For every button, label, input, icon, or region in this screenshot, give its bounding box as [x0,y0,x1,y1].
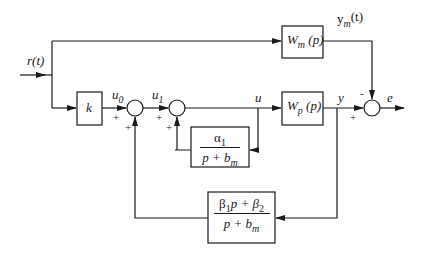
gain-label: k [86,101,92,114]
alpha-filter-transfer-function: α1 p + bm [196,131,244,164]
model-label: Wm (p) [287,33,324,46]
summing-junction-1 [127,100,143,116]
u0-label: u0 [112,88,124,101]
e-label: e [387,91,393,104]
beta-filter-transfer-function: β1p + β2 p + bm [211,197,272,230]
sum3-top-sign: - [360,88,364,99]
plant-label: Wp (p) [287,99,321,112]
ym-label: ym(t) [337,12,363,25]
u-label: u [255,91,262,104]
u1-label: u1 [152,88,164,101]
summing-junction-3 [364,100,380,116]
sum1-bottom-sign: + [125,122,131,133]
input-signal-label: r(t) [27,54,44,67]
sum1-left-sign: + [113,112,119,123]
sum3-left-sign: + [350,112,356,123]
sum2-left-sign: + [156,112,162,123]
summing-junction-2 [169,100,185,116]
y-label: y [338,91,344,104]
sum2-bottom-sign: + [166,122,172,133]
